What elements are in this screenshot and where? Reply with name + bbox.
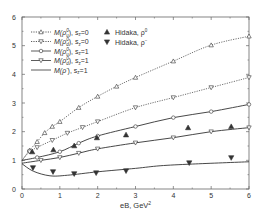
triangle-up-marker — [51, 147, 56, 152]
triangle-up-marker — [35, 140, 39, 144]
x-tick-label: 5 — [209, 192, 213, 199]
legend-item-label: M(ρ0d), sz=1 — [54, 56, 89, 66]
triangle-up-marker — [39, 30, 43, 34]
triangle-down-marker — [94, 171, 99, 176]
triangle-up-marker — [171, 59, 175, 63]
legend-item-label: M(ρ0d), sz=0 — [54, 37, 89, 47]
legend-item-label: M(ρ0u), sz=0 — [54, 28, 89, 38]
triangle-down-marker — [35, 146, 39, 150]
circle-marker — [172, 116, 176, 120]
triangle-up-marker — [72, 143, 77, 148]
y-tick-label: 3 — [12, 100, 16, 107]
triangle-down-marker — [133, 106, 137, 110]
triangle-down-marker — [50, 139, 54, 143]
circle-marker — [77, 141, 81, 145]
legend: M(ρ0u), sz=0M(ρ0d), sz=0M(ρ0u), sz=1M(ρ0… — [31, 28, 148, 76]
x-tick-label: 1 — [58, 192, 62, 199]
y-tick-label: 1 — [12, 157, 16, 164]
x-tick-label: 4 — [171, 192, 175, 199]
x-tick-label: 0 — [20, 192, 24, 199]
circle-marker — [39, 49, 43, 53]
triangle-up-marker — [104, 29, 109, 34]
triangle-up-marker — [123, 132, 128, 137]
x-axis-label: eB, GeV2 — [120, 200, 151, 210]
data-markers — [27, 34, 251, 176]
triangle-up-marker — [247, 34, 251, 38]
circle-marker — [58, 150, 62, 154]
triangle-down-marker — [123, 169, 128, 174]
triangle-up-marker — [50, 124, 54, 128]
triangle-up-marker — [58, 119, 62, 123]
legend-item-label: M(ρ0u), sz=1 — [54, 47, 89, 57]
circle-marker — [134, 125, 138, 129]
y-tick-label: 5 — [12, 42, 16, 49]
y-tick-label: 4 — [12, 71, 16, 78]
legend-item-label: Hidaka, ρ− — [115, 38, 148, 47]
triangle-down-marker — [104, 40, 109, 45]
triangle-down-marker — [209, 86, 213, 90]
chart: 01234560123456 M(ρ0u), sz=0M(ρ0d), sz=0M… — [0, 0, 264, 221]
series-line — [22, 77, 249, 160]
triangle-down-marker — [50, 170, 55, 175]
triangle-up-marker — [95, 94, 99, 98]
x-tick-label: 3 — [134, 192, 138, 199]
triangle-up-marker — [133, 75, 137, 79]
circle-marker — [247, 103, 251, 107]
legend-item-label: M(ρ− ), sz=1 — [54, 66, 88, 76]
series-line — [22, 162, 249, 176]
triangle-up-marker — [114, 84, 118, 88]
triangle-down-marker — [229, 156, 234, 161]
triangle-down-marker — [187, 161, 192, 166]
circle-marker — [209, 110, 213, 114]
x-tick-label: 6 — [247, 192, 251, 199]
y-tick-label: 6 — [12, 14, 16, 21]
triangle-up-marker — [43, 131, 47, 135]
triangle-up-marker — [185, 125, 190, 130]
y-tick-label: 2 — [12, 128, 16, 135]
x-tick-label: 2 — [96, 192, 100, 199]
triangle-up-marker — [77, 105, 81, 109]
triangle-down-marker — [247, 76, 251, 80]
triangle-up-marker — [229, 124, 234, 129]
triangle-down-marker — [39, 40, 43, 44]
legend-item-label: Hidaka, ρ0 — [115, 28, 148, 37]
circle-marker — [35, 156, 39, 160]
triangle-down-marker — [65, 131, 69, 135]
y-tick-label: 0 — [12, 186, 16, 193]
